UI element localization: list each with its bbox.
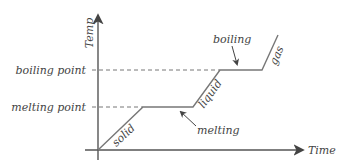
boiling-point-label: boiling point (15, 64, 86, 77)
melting-arrow (181, 112, 196, 126)
liquid-label: liquid (196, 77, 225, 110)
x-axis-label: Time (308, 144, 336, 157)
melting-label: melting (197, 124, 240, 137)
boiling-arrow (232, 46, 237, 64)
boiling-label: boiling (213, 33, 251, 46)
gas-label: gas (267, 44, 287, 67)
melting-point-label: melting point (11, 101, 86, 114)
solid-label: solid (110, 122, 138, 149)
phase-change-diagram: Temp Time boiling point melting point so… (0, 0, 351, 167)
y-axis-label: Temp (83, 18, 96, 48)
